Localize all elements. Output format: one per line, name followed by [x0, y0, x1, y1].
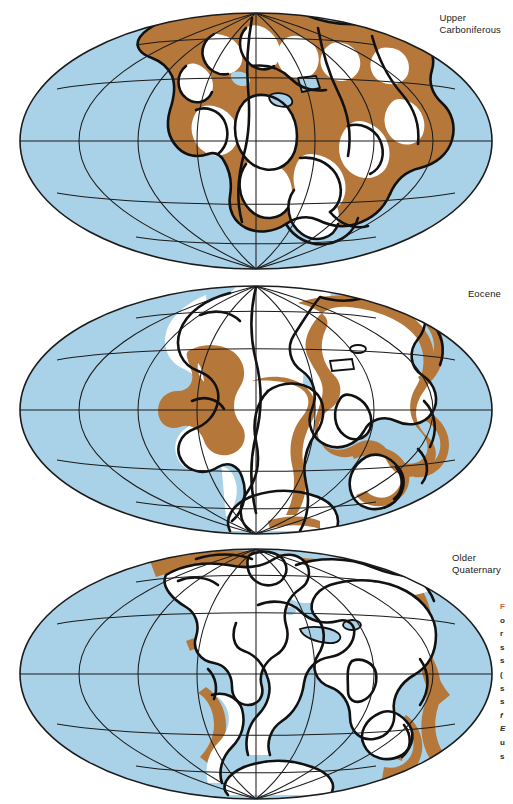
- figure-page: Upper Carboniferous: [0, 0, 513, 804]
- map-label-eocene: Eocene: [468, 288, 501, 300]
- map-svg-older-quaternary: [0, 545, 513, 804]
- map-panel-upper-carboniferous: [0, 6, 513, 276]
- caption-line: u: [500, 736, 513, 750]
- map-panel-older-quaternary: [0, 545, 513, 804]
- map-panel-eocene: [0, 281, 513, 539]
- caption-line: F: [500, 600, 513, 614]
- caption-line: r: [500, 627, 513, 641]
- caption-line: E: [500, 722, 513, 736]
- caption-column-clipped: F o r s s ( s s f E u s: [500, 600, 513, 800]
- caption-line: f: [500, 709, 513, 723]
- map-svg-upper-carboniferous: [0, 6, 513, 276]
- caption-line: s: [500, 695, 513, 709]
- caption-line: s: [500, 654, 513, 668]
- caption-line: (: [500, 668, 513, 682]
- map-svg-eocene: [0, 281, 513, 539]
- map-label-upper-carboniferous: Upper Carboniferous: [439, 12, 501, 35]
- caption-line: s: [500, 682, 513, 696]
- caption-line: s: [500, 750, 513, 764]
- caption-line: o: [500, 614, 513, 628]
- caption-line: s: [500, 641, 513, 655]
- map-label-older-quaternary: Older Quaternary: [452, 552, 501, 575]
